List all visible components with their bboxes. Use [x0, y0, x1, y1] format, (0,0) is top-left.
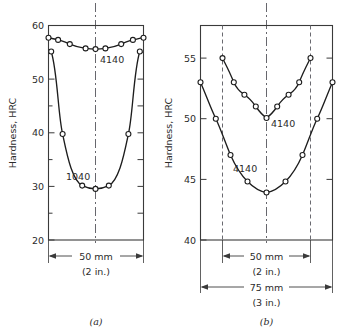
- panel-b-4140-upper-point: [286, 92, 291, 97]
- panel-b-4140-lower-point: [283, 179, 288, 184]
- figure-container: 60 50 40 30 20 Hardness, HRC 4140 1040: [0, 0, 349, 333]
- panel-b-4140-upper-point: [264, 116, 269, 121]
- panel-b-dim75-arrow-left: [201, 284, 209, 290]
- panel-a-4140-point: [67, 42, 72, 47]
- panel-a-dim-arrow-left: [49, 253, 57, 259]
- panel-b-4140-upper-point: [253, 104, 258, 109]
- panel-b-curve-label-4140-upper: 4140: [271, 118, 295, 129]
- panel-b-4140-lower-point: [213, 116, 218, 121]
- panel-a-1040-point: [137, 49, 142, 54]
- panel-a-1040-point: [106, 183, 111, 188]
- panel-b-4140-lower-point: [228, 153, 233, 158]
- panel-a-1040-point: [80, 183, 85, 188]
- panel-b-4140-upper-point: [297, 80, 302, 85]
- panel-a-1040-point: [49, 49, 54, 54]
- panel-b-4140-upper-point: [242, 92, 247, 97]
- panel-a-1040-point: [60, 132, 65, 137]
- panel-a-4140-point: [56, 37, 61, 42]
- panel-b-4140-lower-point: [264, 190, 269, 195]
- panel-a-dim-arrow-right: [136, 253, 144, 259]
- panel-a-yticklabel-20: 20: [32, 235, 44, 246]
- panel-a-1040-point: [126, 132, 131, 137]
- panel-a-4140-point: [141, 35, 146, 40]
- panel-b-4140-lower-point: [245, 179, 250, 184]
- panel-b-dim75-label-imperial: (3 in.): [252, 297, 280, 308]
- panel-b-curve-label-4140-lower: 4140: [233, 163, 257, 174]
- panel-a-curve-label-1040: 1040: [66, 171, 90, 182]
- panel-b-dim50-label-metric: 50 mm: [250, 251, 284, 262]
- panel-a-curve-label-4140: 4140: [100, 54, 124, 65]
- panel-a-4140-point: [103, 46, 108, 51]
- panel-a-4140-point: [93, 47, 98, 52]
- panel-b-dim50-arrow-left: [223, 253, 231, 259]
- panel-b: 55 50 45 40 Hardness, HRC 4140 4140: [163, 3, 335, 327]
- panel-b-4140-lower-point: [315, 116, 320, 121]
- panel-b-dim50-arrow-right: [303, 253, 311, 259]
- panel-b-tag: (b): [260, 316, 274, 327]
- panel-b-yticklabel-40: 40: [184, 235, 196, 246]
- panel-b-yticklabel-55: 55: [184, 53, 196, 64]
- panel-b-y-axis-title: Hardness, HRC: [163, 97, 174, 168]
- panel-a-tag: (a): [89, 316, 102, 327]
- panel-b-dim50-label-imperial: (2 in.): [252, 266, 280, 277]
- panel-b-4140-upper-point: [308, 56, 313, 61]
- panel-b-dim75-arrow-right: [325, 284, 333, 290]
- panel-a-1040-point: [93, 186, 98, 191]
- panel-a-yticklabel-30: 30: [32, 181, 44, 192]
- panel-b-4140-lower-point: [300, 153, 305, 158]
- figure-svg: 60 50 40 30 20 Hardness, HRC 4140 1040: [0, 0, 349, 333]
- panel-a-yticklabel-60: 60: [32, 20, 44, 31]
- panel-b-4140-upper-point: [275, 104, 280, 109]
- panel-a: 60 50 40 30 20 Hardness, HRC 4140 1040: [7, 3, 146, 327]
- panel-a-4140-point: [130, 37, 135, 42]
- panel-a-dim-label-imperial: (2 in.): [82, 266, 110, 277]
- panel-a-4140-point: [119, 42, 124, 47]
- panel-b-4140-upper-point: [231, 80, 236, 85]
- panel-a-4140-point: [83, 46, 88, 51]
- panel-a-dim-label-metric: 50 mm: [79, 251, 113, 262]
- panel-a-4140-point: [46, 35, 51, 40]
- panel-b-dim75-label-metric: 75 mm: [250, 282, 284, 293]
- panel-a-yticklabel-40: 40: [32, 127, 44, 138]
- panel-b-4140-lower-point: [330, 80, 335, 85]
- panel-b-yticklabel-50: 50: [184, 113, 196, 124]
- panel-b-4140-lower-point: [198, 80, 203, 85]
- panel-a-yticklabel-50: 50: [32, 74, 44, 85]
- panel-b-yticklabel-45: 45: [184, 174, 196, 185]
- panel-a-y-axis-title: Hardness, HRC: [7, 97, 18, 168]
- panel-b-4140-upper-point: [220, 56, 225, 61]
